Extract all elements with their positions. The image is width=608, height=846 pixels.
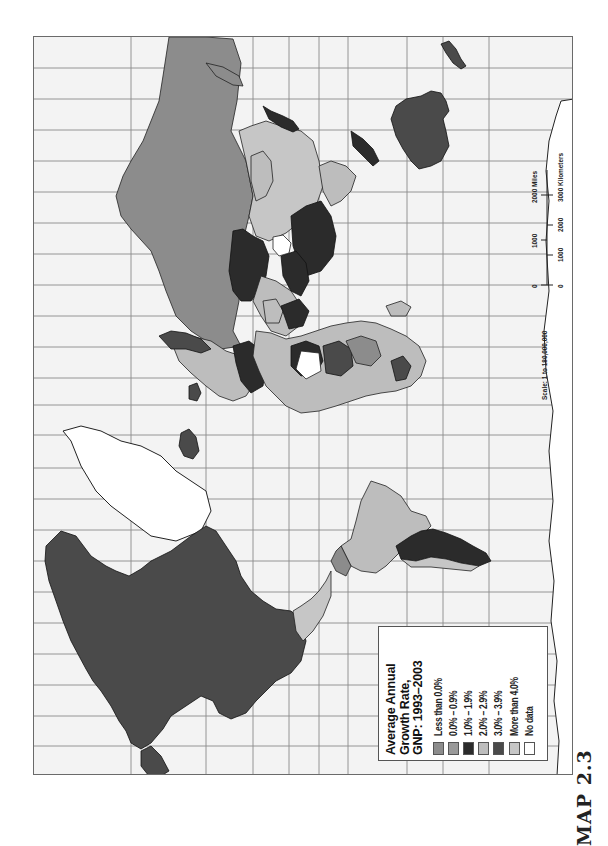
legend-swatch (509, 742, 520, 755)
scale-miles-0: 0 (530, 284, 539, 288)
scale-km-2000: 2000 (556, 218, 565, 232)
legend-label: 3.0% – 3.9% (493, 691, 504, 736)
region-alaska (141, 746, 169, 775)
region-mexico (293, 571, 331, 641)
legend-swatch (493, 742, 504, 755)
legend-title-line-1: Average Annual (385, 633, 399, 755)
scale-miles-1000: 1000 (530, 234, 539, 248)
legend-swatch (448, 742, 459, 755)
region-iceland (189, 383, 201, 401)
scale-km-0: 0 (556, 284, 565, 288)
legend-swatch (524, 742, 535, 755)
map-figure-label: MAP 2.3 (573, 749, 595, 846)
scale-bar: Scale: 1 to 180,000,000 0 1000 2000 Mile… (520, 80, 580, 410)
legend-label: 1.0% – 1.9% (463, 691, 474, 736)
scale-bar-content: Scale: 1 to 180,000,000 0 1000 2000 Mile… (520, 80, 580, 410)
legend-label: No data (524, 707, 535, 736)
legend-title-line-3: GNP: 1993–2003 (412, 633, 426, 755)
scale-miles-2000: 2000 Miles (530, 171, 539, 203)
scale-km-1000: 1000 (556, 248, 565, 262)
legend-label: Less than 0.0% (433, 678, 444, 736)
legend-label: 0.0% – 0.9% (448, 691, 459, 736)
legend-item: 1.0% – 1.9% (461, 633, 476, 755)
legend-title: Average Annual Growth Rate, GNP: 1993–20… (385, 633, 426, 755)
legend-item: More than 4.0% (506, 633, 521, 755)
legend-swatch (463, 742, 474, 755)
map-legend: Average Annual Growth Rate, GNP: 1993–20… (378, 626, 548, 761)
region-afghanistan (273, 235, 291, 256)
legend-label: More than 4.0% (509, 677, 520, 736)
legend-title-line-2: Growth Rate, (399, 633, 413, 755)
legend-swatch (478, 742, 489, 755)
legend-content: Average Annual Growth Rate, GNP: 1993–20… (379, 627, 549, 762)
region-new-zealand (441, 41, 466, 69)
region-australia (391, 91, 449, 169)
legend-item: No data (522, 633, 537, 755)
legend-item: 0.0% – 0.9% (446, 633, 461, 755)
legend-item: 3.0% – 3.9% (491, 633, 506, 755)
legend-item: Less than 0.0% (431, 633, 446, 755)
legend-swatch (433, 742, 444, 755)
region-uk (179, 429, 199, 459)
scale-km-3000: 3000 Kilometers (556, 153, 565, 202)
region-se-asia (319, 161, 356, 206)
scale-ratio: Scale: 1 to 180,000,000 (540, 331, 549, 400)
legend-label: 2.0% – 2.9% (478, 691, 489, 736)
legend-item: 2.0% – 2.9% (476, 633, 491, 755)
legend-list: Less than 0.0% 0.0% – 0.9% 1.0% – 1.9% 2… (431, 633, 537, 755)
